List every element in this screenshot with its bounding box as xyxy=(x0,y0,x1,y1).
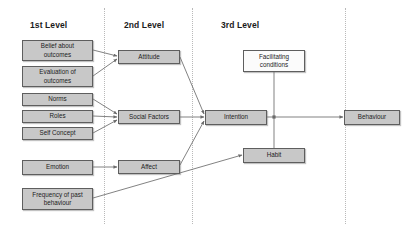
node-behaviour[interactable]: Behaviour xyxy=(344,110,400,125)
divider-level-1-2 xyxy=(104,8,105,224)
node-social-factors[interactable]: Social Factors xyxy=(118,110,180,124)
node-label-line: Social Factors xyxy=(129,113,169,122)
node-label-line: Roles xyxy=(49,112,65,121)
node-label-line: Intention xyxy=(224,113,248,122)
node-affect[interactable]: Affect xyxy=(118,160,180,174)
node-norms[interactable]: Norms xyxy=(22,93,93,106)
edge-norms-to-social-factors xyxy=(93,99,117,114)
node-label-line: conditions xyxy=(259,61,289,70)
node-evaluation-of-outcomes[interactable]: Evaluation of outcomes xyxy=(22,66,93,87)
edge-belief-to-attitude xyxy=(93,50,117,56)
node-intention[interactable]: Intention xyxy=(205,110,267,125)
node-attitude[interactable]: Attitude xyxy=(118,50,180,64)
node-label-line: Affect xyxy=(141,163,157,172)
node-frequency-of-past-behaviour[interactable]: Frequency of past behaviour xyxy=(22,188,93,210)
node-label-line: outcomes xyxy=(41,51,74,60)
column-header-level-1: 1st Level xyxy=(30,20,67,30)
interpersonal-behaviour-diagram: 1st Level 2nd Level 3rd Level Belie xyxy=(0,0,406,232)
edge-self-concept-to-social-factors xyxy=(93,120,117,133)
node-label-line: Evaluation of xyxy=(39,68,75,77)
node-label-line: Self Concept xyxy=(39,129,75,138)
divider-level-2-3 xyxy=(192,8,193,224)
node-label-line: Frequency of past xyxy=(32,191,82,200)
node-roles[interactable]: Roles xyxy=(22,110,93,123)
node-habit[interactable]: Habit xyxy=(243,148,305,163)
edge-evaluation-to-attitude xyxy=(93,59,117,76)
node-facilitating-conditions[interactable]: Facilitating conditions xyxy=(243,50,305,72)
node-emotion[interactable]: Emotion xyxy=(22,160,93,175)
column-header-level-2: 2nd Level xyxy=(124,20,164,30)
edge-roles-to-social-factors xyxy=(93,116,117,117)
node-self-concept[interactable]: Self Concept xyxy=(22,127,93,140)
node-belief-about-outcomes[interactable]: Belief about outcomes xyxy=(22,40,93,61)
node-label-line: Belief about xyxy=(41,42,74,51)
node-label-line: Facilitating xyxy=(259,53,289,62)
node-label-line: behaviour xyxy=(32,199,82,208)
column-header-level-3: 3rd Level xyxy=(221,20,259,30)
node-label-line: Norms xyxy=(48,95,67,104)
node-label-line: Emotion xyxy=(46,163,69,172)
junction-marker xyxy=(272,115,275,118)
node-label-line: Attitude xyxy=(138,53,159,62)
node-label-line: outcomes xyxy=(39,77,75,86)
node-label-line: Habit xyxy=(267,151,282,160)
node-label-line: Behaviour xyxy=(358,113,386,122)
